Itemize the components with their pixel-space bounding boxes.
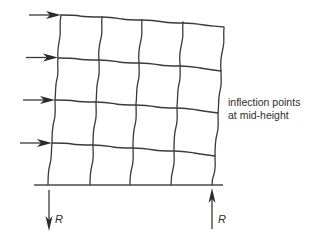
columns	[48, 15, 224, 185]
column-5	[212, 28, 224, 185]
load-arrow-level-1	[29, 11, 61, 19]
reaction-right-label: R	[218, 213, 226, 225]
lateral-loads	[20, 11, 61, 147]
column-2	[90, 17, 102, 185]
beams	[52, 15, 224, 156]
load-arrow-level-4	[20, 139, 52, 147]
reaction-right: R	[209, 188, 227, 229]
inflection-annotation: inflection points at mid-height	[228, 96, 300, 121]
annotation-line-2: at mid-height	[228, 109, 289, 121]
annotation-line-1: inflection points	[228, 96, 300, 108]
reaction-left: R	[46, 190, 64, 231]
column-4	[171, 22, 183, 185]
frame-diagram: R R inflection points at mid-height	[0, 0, 320, 241]
load-arrow-level-2	[26, 54, 58, 62]
column-3	[130, 20, 142, 185]
reaction-left-label: R	[55, 213, 63, 225]
load-arrow-level-3	[23, 96, 55, 104]
